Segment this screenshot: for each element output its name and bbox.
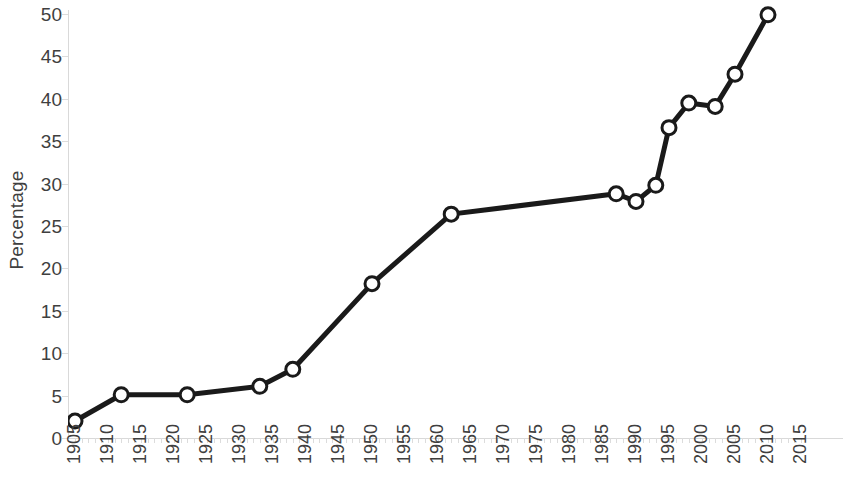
data-point-marker	[761, 8, 775, 22]
y-axis-tick-label: 30	[32, 174, 62, 193]
x-axis-tick-label-text: 1950	[362, 444, 380, 464]
x-axis-minor-tick	[88, 438, 89, 443]
y-axis-tick-label: 35	[32, 132, 62, 151]
x-axis-minor-tick	[755, 438, 756, 443]
x-axis-minor-tick	[220, 438, 221, 443]
x-axis-minor-tick	[227, 438, 228, 443]
x-axis-tick-label: 1905	[65, 444, 85, 493]
x-axis-tick-label-text: 1960	[428, 444, 446, 464]
x-axis-tick-label: 2005	[725, 444, 745, 493]
data-point-marker	[609, 187, 623, 201]
x-axis-tick-label-text: 1970	[494, 444, 512, 464]
x-axis-tick-label-text: 1930	[230, 444, 248, 464]
x-axis-minor-tick	[491, 438, 492, 443]
x-axis-minor-tick	[590, 438, 591, 443]
x-axis-tick-label: 1935	[263, 444, 283, 493]
x-axis-minor-tick	[154, 438, 155, 443]
x-axis-tick-label: 1920	[164, 444, 184, 493]
y-axis-tick-label: 20	[32, 259, 62, 278]
x-axis-tick-label-text: 1935	[263, 444, 281, 464]
x-axis-tick-label: 1995	[659, 444, 679, 493]
y-axis-tick-label: 5	[32, 386, 62, 405]
x-axis-tick-label-text: 1945	[329, 444, 347, 464]
data-point-marker	[649, 178, 663, 192]
x-axis-minor-tick	[715, 438, 716, 443]
x-axis-minor-tick	[781, 438, 782, 443]
x-axis-tick-label: 1940	[296, 444, 316, 493]
x-axis-tick-label-text: 1990	[626, 444, 644, 464]
y-axis-tick-label: 25	[32, 217, 62, 236]
data-point-marker	[253, 379, 267, 393]
y-axis-tick-label: 50	[32, 5, 62, 24]
x-axis-minor-tick	[293, 438, 294, 443]
x-axis-tick-label-text: 1985	[593, 444, 611, 464]
x-axis-minor-tick	[689, 438, 690, 443]
y-axis-title: Percentage	[0, 0, 34, 440]
data-point-marker	[662, 121, 676, 135]
x-axis-minor-tick	[187, 438, 188, 443]
x-axis-minor-tick	[550, 438, 551, 443]
x-axis-minor-tick	[194, 438, 195, 443]
x-axis-tick-label-text: 2005	[725, 444, 743, 464]
y-axis-tick-label: 10	[32, 344, 62, 363]
x-axis-minor-tick	[557, 438, 558, 443]
x-axis-minor-tick	[722, 438, 723, 443]
x-axis-minor-tick	[128, 438, 129, 443]
x-axis-minor-tick	[788, 438, 789, 443]
x-axis-minor-tick	[748, 438, 749, 443]
x-axis-tick-label: 1980	[560, 444, 580, 493]
x-axis-tick-label: 1970	[494, 444, 514, 493]
x-axis-tick-labels: 1905191019151920192519301935194019451950…	[0, 444, 847, 493]
x-axis-tick-label: 2010	[758, 444, 778, 493]
x-axis-minor-tick	[517, 438, 518, 443]
x-axis-minor-tick	[484, 438, 485, 443]
y-axis-title-text: Percentage	[6, 170, 28, 269]
x-axis-minor-tick	[392, 438, 393, 443]
line-chart: Percentage 05101520253035404550 19051910…	[0, 0, 847, 493]
x-axis-minor-tick	[451, 438, 452, 443]
x-axis-minor-tick	[583, 438, 584, 443]
x-axis-tick-label: 1925	[197, 444, 217, 493]
data-point-marker	[444, 207, 458, 221]
x-axis-tick-label: 1945	[329, 444, 349, 493]
x-axis-minor-tick	[260, 438, 261, 443]
data-point-marker	[682, 96, 696, 110]
x-axis-tick-label: 1985	[593, 444, 613, 493]
x-axis-tick-label-text: 1965	[461, 444, 479, 464]
x-axis-minor-tick	[161, 438, 162, 443]
x-axis-tick-label-text: 1905	[65, 444, 83, 464]
x-axis-minor-tick	[253, 438, 254, 443]
x-axis-tick-label-text: 1955	[395, 444, 413, 464]
x-axis-tick-label: 2015	[791, 444, 811, 493]
x-axis-minor-tick	[359, 438, 360, 443]
x-axis-tick-label-text: 1995	[659, 444, 677, 464]
data-point-marker	[708, 99, 722, 113]
y-axis-tick-label: 45	[32, 47, 62, 66]
x-axis-minor-tick	[286, 438, 287, 443]
x-axis-tick-label-text: 2010	[758, 444, 776, 464]
x-axis-minor-tick	[649, 438, 650, 443]
plot-area	[68, 0, 840, 438]
x-axis-tick-label: 1915	[131, 444, 151, 493]
data-point-marker	[180, 388, 194, 402]
x-axis-tick-label-text: 2015	[791, 444, 809, 464]
x-axis-minor-tick	[425, 438, 426, 443]
series-line-percentage	[68, 0, 840, 438]
series-markers	[68, 8, 775, 428]
x-axis-tick-label: 1990	[626, 444, 646, 493]
data-point-marker	[629, 194, 643, 208]
x-axis-minor-tick	[121, 438, 122, 443]
x-axis-minor-tick	[682, 438, 683, 443]
x-axis-tick-label: 1950	[362, 444, 382, 493]
x-axis-minor-tick	[95, 438, 96, 443]
x-axis-minor-tick	[616, 438, 617, 443]
x-axis-tick-label-text: 1915	[131, 444, 149, 464]
data-point-marker	[728, 67, 742, 81]
y-axis-tick-label: 40	[32, 89, 62, 108]
x-axis-tick-label-text: 1940	[296, 444, 314, 464]
x-axis-tick-label: 1910	[98, 444, 118, 493]
x-axis-tick-label-text: 1925	[197, 444, 215, 464]
x-axis-tick-label: 1930	[230, 444, 250, 493]
x-axis-minor-tick	[418, 438, 419, 443]
x-axis-minor-tick	[623, 438, 624, 443]
